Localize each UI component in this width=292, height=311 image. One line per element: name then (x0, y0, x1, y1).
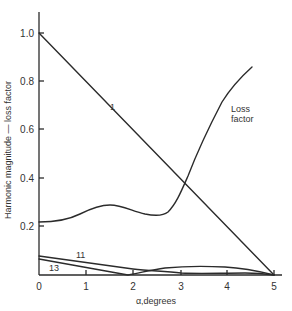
x-axis-title: α,degrees (136, 296, 177, 306)
curve-13-label: 13 (49, 263, 59, 273)
y-tick-label: 0.4 (20, 173, 34, 184)
x-tick-label: 4 (224, 281, 230, 292)
y-axis-title: Harmonic magnitude — loss factor (3, 81, 13, 219)
curve-11-label: 11 (76, 250, 85, 260)
x-tick-label: 5 (271, 281, 277, 292)
x-tick-label: 0 (36, 281, 42, 292)
y-tick-label: 0.8 (20, 76, 34, 87)
curve-loss-factor (39, 67, 252, 222)
axes (39, 12, 282, 275)
y-tick-label: 1.0 (20, 28, 34, 39)
y-tick-label: 0.6 (20, 124, 34, 135)
x-tick-label: 3 (178, 281, 184, 292)
curve-1-label: 1 (110, 102, 115, 112)
y-tick-label: 0.2 (20, 221, 34, 232)
loss-factor-label-line1: Loss (231, 104, 251, 114)
x-tick-label: 1 (83, 281, 89, 292)
x-tick-label: 2 (130, 281, 136, 292)
curve-1 (39, 33, 274, 275)
loss-factor-label-line2: factor (231, 114, 254, 124)
harmonic-loss-chart: 1.0 0.8 0.6 0.4 0.2 0 1 2 3 4 5 α,degree… (0, 0, 292, 311)
